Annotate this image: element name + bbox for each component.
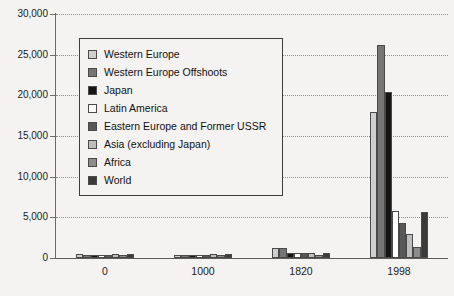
chart-legend: Western EuropeWestern Europe OffshootsJa…	[79, 38, 283, 196]
legend-item-label: Eastern Europe and Former USSR	[104, 121, 266, 132]
chart-figure: 05,00010,00015,00020,00025,00030,000 010…	[0, 0, 454, 296]
bar	[127, 254, 134, 258]
bar	[421, 212, 428, 258]
legend-swatch-icon	[88, 68, 97, 77]
bar	[189, 255, 196, 258]
bar	[287, 253, 294, 258]
bar	[399, 223, 406, 258]
bar	[181, 255, 188, 258]
legend-swatch-icon	[88, 86, 97, 95]
bar	[225, 254, 232, 258]
bar	[210, 254, 217, 258]
bar	[385, 92, 392, 258]
legend-item-label: World	[104, 175, 131, 186]
y-tick-label: 10,000	[0, 172, 48, 182]
legend-item[interactable]: World	[88, 171, 282, 189]
bar	[83, 255, 90, 258]
legend-item-label: Western Europe	[104, 49, 180, 60]
gridline	[56, 258, 448, 259]
y-tick-label: 0	[0, 253, 48, 263]
legend-item-label: Africa	[104, 157, 131, 168]
legend-item[interactable]: Africa	[88, 153, 282, 171]
legend-swatch-icon	[88, 122, 97, 131]
bar	[272, 248, 279, 258]
legend-item-label: Latin America	[104, 103, 168, 114]
bar	[377, 45, 384, 258]
legend-item[interactable]: Latin America	[88, 99, 282, 117]
legend-item[interactable]: Japan	[88, 81, 282, 99]
y-tick-label: 30,000	[0, 9, 48, 19]
x-tick-label: 1820	[289, 266, 312, 277]
bar	[217, 255, 224, 258]
bar	[406, 234, 413, 258]
x-tick-label: 1000	[191, 266, 214, 277]
legend-item-label: Western Europe Offshoots	[104, 67, 227, 78]
legend-swatch-icon	[88, 176, 97, 185]
bar	[203, 255, 210, 258]
bar	[392, 211, 399, 258]
y-tick-label: 5,000	[0, 212, 48, 222]
y-tick-label: 20,000	[0, 90, 48, 100]
legend-item[interactable]: Asia (excluding Japan)	[88, 135, 282, 153]
bar	[119, 255, 126, 258]
legend-swatch-icon	[88, 104, 97, 113]
bar	[301, 253, 308, 258]
x-tick-label: 0	[102, 266, 108, 277]
bar	[196, 255, 203, 258]
bar	[105, 255, 112, 258]
bar	[323, 253, 330, 258]
bar	[315, 255, 322, 258]
bar	[91, 255, 98, 258]
y-tick-label: 15,000	[0, 131, 48, 141]
legend-item[interactable]: Western Europe	[88, 45, 282, 63]
legend-swatch-icon	[88, 158, 97, 167]
y-tick-label: 25,000	[0, 50, 48, 60]
legend-item[interactable]: Eastern Europe and Former USSR	[88, 117, 282, 135]
legend-item-label: Asia (excluding Japan)	[104, 139, 210, 150]
gridline	[56, 14, 448, 15]
bar	[294, 253, 301, 258]
x-tick-label: 1998	[387, 266, 410, 277]
legend-swatch-icon	[88, 140, 97, 149]
bar	[370, 112, 377, 258]
bar	[76, 254, 83, 258]
bar	[279, 248, 286, 258]
bar	[413, 247, 420, 258]
legend-item[interactable]: Western Europe Offshoots	[88, 63, 282, 81]
bar	[174, 255, 181, 258]
legend-swatch-icon	[88, 50, 97, 59]
bar	[112, 254, 119, 258]
bar	[98, 255, 105, 258]
legend-item-label: Japan	[104, 85, 133, 96]
bar	[308, 253, 315, 258]
